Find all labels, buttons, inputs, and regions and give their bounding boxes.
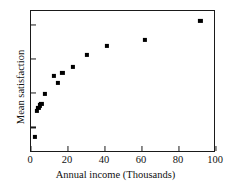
data-point: [198, 19, 202, 23]
x-axis-tick: [178, 146, 179, 151]
x-axis-tick: [67, 146, 68, 151]
data-point: [56, 81, 60, 85]
x-axis-tick: [141, 146, 142, 151]
x-axis-tick: [215, 146, 216, 151]
x-axis-tick-label: 0: [27, 154, 32, 165]
y-axis-tick: [31, 93, 36, 94]
x-axis-tick-label: 100: [207, 154, 223, 165]
data-point: [43, 92, 47, 96]
data-point: [85, 53, 89, 57]
data-point: [143, 38, 147, 42]
x-axis-tick: [104, 146, 105, 151]
data-point: [52, 74, 56, 78]
x-axis-title: Annual income (Thousands): [0, 169, 231, 181]
data-point: [33, 135, 37, 139]
y-axis-tick: [31, 59, 36, 60]
data-points-layer: [31, 11, 214, 151]
data-point: [105, 44, 109, 48]
x-axis-tick-label: 20: [62, 154, 73, 165]
y-axis-title: Mean satisfaction: [15, 27, 27, 147]
x-axis-tick-label: 60: [136, 154, 147, 165]
x-axis-tick-label: 80: [173, 154, 184, 165]
scatter-chart-figure: 020406080100 Annual income (Thousands) M…: [0, 0, 231, 196]
x-axis-tick-label: 40: [99, 154, 110, 165]
y-axis-tick: [31, 127, 36, 128]
x-axis-tick: [30, 146, 31, 151]
data-point: [39, 102, 43, 106]
data-point: [71, 65, 75, 69]
plot-area: [30, 10, 215, 152]
data-point: [60, 71, 64, 75]
y-axis-tick: [31, 25, 36, 26]
